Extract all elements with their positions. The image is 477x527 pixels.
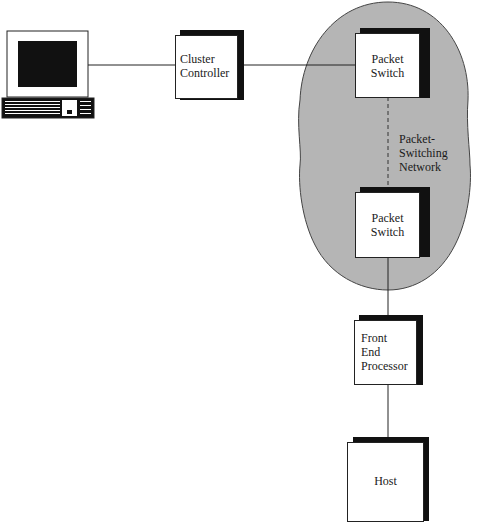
packet-switch-bottom-label-line2: Switch: [355, 225, 420, 239]
front-end-processor-label-line3: Processor: [361, 359, 408, 373]
cluster-controller-label-line1: Cluster: [180, 52, 229, 66]
cluster-controller-label-line2: Controller: [180, 66, 229, 80]
cluster-controller-label: Cluster Controller: [180, 52, 229, 80]
packet-switch-bottom-label: Packet Switch: [355, 211, 420, 239]
host-label: Host: [347, 474, 424, 488]
packet-switch-top-label: Packet Switch: [355, 52, 420, 80]
terminal-icon: [2, 31, 94, 118]
packet-switch-top-label-line1: Packet: [355, 52, 420, 66]
network-label: Packet- Switching Network: [399, 132, 448, 174]
network-label-line3: Network: [399, 160, 448, 174]
packet-switch-bottom-label-line1: Packet: [355, 211, 420, 225]
front-end-processor-label: Front End Processor: [361, 331, 408, 373]
front-end-processor-label-line1: Front: [361, 331, 408, 345]
network-label-line1: Packet-: [399, 132, 448, 146]
packet-switch-top-label-line2: Switch: [355, 66, 420, 80]
network-label-line2: Switching: [399, 146, 448, 160]
front-end-processor-label-line2: End: [361, 345, 408, 359]
